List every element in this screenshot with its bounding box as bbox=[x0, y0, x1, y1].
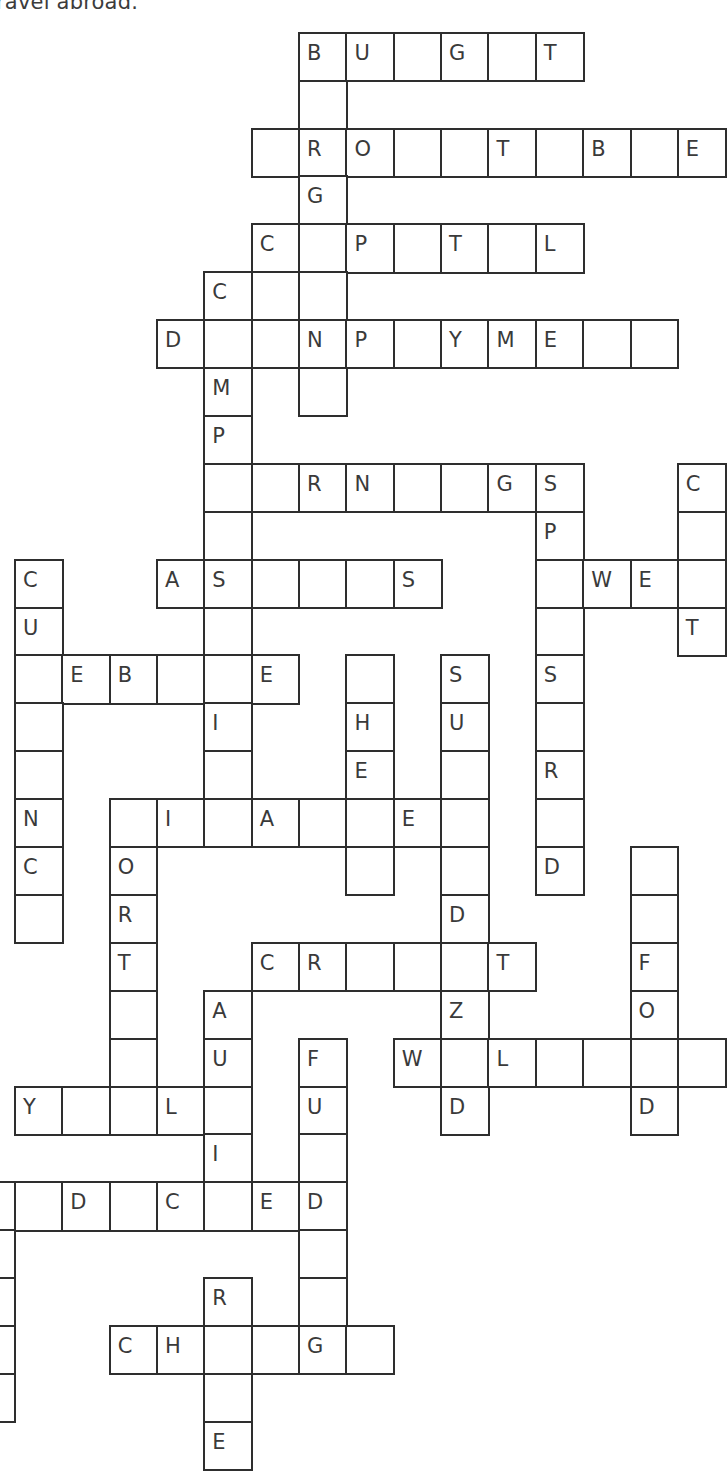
crossword-cell[interactable] bbox=[14, 702, 64, 752]
crossword-cell[interactable] bbox=[393, 942, 443, 992]
crossword-cell[interactable]: E bbox=[535, 319, 585, 369]
crossword-cell[interactable] bbox=[203, 1373, 253, 1423]
crossword-cell[interactable] bbox=[109, 1181, 159, 1231]
crossword-cell[interactable] bbox=[203, 750, 253, 800]
crossword-cell[interactable] bbox=[440, 128, 490, 178]
crossword-cell[interactable] bbox=[203, 1086, 253, 1136]
crossword-cell[interactable] bbox=[298, 1229, 348, 1279]
crossword-cell[interactable] bbox=[582, 1038, 632, 1088]
crossword-cell[interactable] bbox=[298, 223, 348, 273]
crossword-cell[interactable]: R bbox=[298, 942, 348, 992]
crossword-cell[interactable]: B bbox=[582, 128, 632, 178]
crossword-cell[interactable] bbox=[14, 1181, 64, 1231]
crossword-cell[interactable]: G bbox=[298, 175, 348, 225]
crossword-cell[interactable]: T bbox=[487, 942, 537, 992]
crossword-cell[interactable] bbox=[0, 1277, 16, 1327]
crossword-cell[interactable] bbox=[440, 1038, 490, 1088]
crossword-cell[interactable] bbox=[535, 559, 585, 609]
crossword-cell[interactable] bbox=[203, 1325, 253, 1375]
crossword-cell[interactable] bbox=[535, 798, 585, 848]
crossword-cell[interactable]: D bbox=[156, 319, 206, 369]
crossword-cell[interactable]: U bbox=[14, 607, 64, 657]
crossword-cell[interactable]: C bbox=[14, 846, 64, 896]
crossword-cell[interactable]: O bbox=[630, 990, 680, 1040]
crossword-cell[interactable]: E bbox=[677, 128, 727, 178]
crossword-cell[interactable]: U bbox=[345, 32, 395, 82]
crossword-cell[interactable] bbox=[298, 1277, 348, 1327]
crossword-cell[interactable] bbox=[393, 32, 443, 82]
crossword-cell[interactable]: I bbox=[203, 1133, 253, 1183]
crossword-cell[interactable]: T bbox=[535, 32, 585, 82]
crossword-cell[interactable]: E bbox=[251, 654, 301, 704]
crossword-cell[interactable] bbox=[535, 702, 585, 752]
crossword-cell[interactable]: S bbox=[203, 559, 253, 609]
crossword-cell[interactable]: R bbox=[203, 1277, 253, 1327]
crossword-cell[interactable]: W bbox=[582, 559, 632, 609]
crossword-cell[interactable]: C bbox=[677, 463, 727, 513]
crossword-cell[interactable] bbox=[630, 319, 680, 369]
crossword-cell[interactable]: Z bbox=[440, 990, 490, 1040]
crossword-cell[interactable]: N bbox=[14, 798, 64, 848]
crossword-cell[interactable] bbox=[630, 894, 680, 944]
crossword-cell[interactable] bbox=[109, 798, 159, 848]
crossword-cell[interactable]: G bbox=[440, 32, 490, 82]
crossword-cell[interactable]: U bbox=[440, 702, 490, 752]
crossword-cell[interactable] bbox=[440, 463, 490, 513]
crossword-cell[interactable]: D bbox=[440, 894, 490, 944]
crossword-cell[interactable] bbox=[109, 990, 159, 1040]
crossword-cell[interactable] bbox=[630, 846, 680, 896]
crossword-cell[interactable] bbox=[630, 1038, 680, 1088]
crossword-cell[interactable]: E bbox=[393, 798, 443, 848]
crossword-cell[interactable] bbox=[61, 1086, 111, 1136]
crossword-cell[interactable] bbox=[203, 654, 253, 704]
crossword-cell[interactable]: P bbox=[535, 511, 585, 561]
crossword-cell[interactable]: S bbox=[440, 654, 490, 704]
crossword-cell[interactable] bbox=[345, 1325, 395, 1375]
crossword-cell[interactable]: D bbox=[61, 1181, 111, 1231]
crossword-cell[interactable]: I bbox=[203, 702, 253, 752]
crossword-cell[interactable]: C bbox=[203, 271, 253, 321]
crossword-cell[interactable] bbox=[203, 319, 253, 369]
crossword-cell[interactable]: S bbox=[535, 654, 585, 704]
crossword-cell[interactable]: L bbox=[535, 223, 585, 273]
crossword-cell[interactable]: L bbox=[487, 1038, 537, 1088]
crossword-cell[interactable]: B bbox=[298, 32, 348, 82]
crossword-cell[interactable] bbox=[251, 463, 301, 513]
crossword-cell[interactable] bbox=[393, 319, 443, 369]
crossword-cell[interactable] bbox=[393, 223, 443, 273]
crossword-cell[interactable]: A bbox=[251, 798, 301, 848]
crossword-cell[interactable]: C bbox=[14, 559, 64, 609]
crossword-cell[interactable] bbox=[440, 942, 490, 992]
crossword-cell[interactable]: C bbox=[251, 942, 301, 992]
crossword-cell[interactable] bbox=[251, 319, 301, 369]
crossword-cell[interactable]: D bbox=[535, 846, 585, 896]
crossword-cell[interactable]: F bbox=[298, 1038, 348, 1088]
crossword-cell[interactable] bbox=[251, 271, 301, 321]
crossword-cell[interactable]: P bbox=[203, 415, 253, 465]
crossword-cell[interactable] bbox=[298, 271, 348, 321]
crossword-cell[interactable]: T bbox=[487, 128, 537, 178]
crossword-cell[interactable]: E bbox=[61, 654, 111, 704]
crossword-cell[interactable] bbox=[203, 511, 253, 561]
crossword-cell[interactable]: C bbox=[156, 1181, 206, 1231]
crossword-cell[interactable]: Y bbox=[440, 319, 490, 369]
crossword-cell[interactable]: R bbox=[109, 894, 159, 944]
crossword-cell[interactable] bbox=[345, 798, 395, 848]
crossword-cell[interactable]: D bbox=[298, 1181, 348, 1231]
crossword-cell[interactable] bbox=[535, 1038, 585, 1088]
crossword-cell[interactable] bbox=[298, 1133, 348, 1183]
crossword-cell[interactable]: N bbox=[298, 319, 348, 369]
crossword-cell[interactable] bbox=[582, 319, 632, 369]
crossword-cell[interactable] bbox=[251, 1325, 301, 1375]
crossword-cell[interactable] bbox=[677, 511, 727, 561]
crossword-cell[interactable] bbox=[298, 559, 348, 609]
crossword-cell[interactable] bbox=[14, 750, 64, 800]
crossword-cell[interactable]: S bbox=[535, 463, 585, 513]
crossword-cell[interactable] bbox=[14, 654, 64, 704]
crossword-cell[interactable]: M bbox=[203, 367, 253, 417]
crossword-cell[interactable] bbox=[345, 846, 395, 896]
crossword-cell[interactable] bbox=[487, 223, 537, 273]
crossword-cell[interactable] bbox=[156, 654, 206, 704]
crossword-cell[interactable] bbox=[535, 607, 585, 657]
crossword-cell[interactable]: Y bbox=[14, 1086, 64, 1136]
